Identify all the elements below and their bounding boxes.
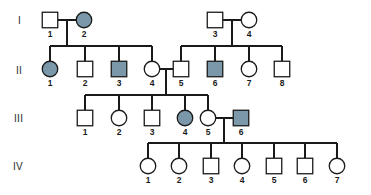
individual-IV-4-id-label: 4 (240, 175, 245, 185)
generation-label-III: III (14, 113, 23, 124)
individual-symbols-group (42, 12, 345, 174)
individual-II-2-male-unaffected-symbol[interactable] (77, 61, 93, 77)
individual-II-1-id-label: 1 (48, 78, 53, 88)
individual-III-1-male-unaffected-symbol[interactable] (77, 110, 93, 126)
individual-IV-7-female-unaffected-symbol[interactable] (329, 158, 345, 174)
individual-I-3-male-unaffected-symbol[interactable] (207, 12, 223, 28)
individual-IV-5-id-label: 5 (272, 175, 277, 185)
individual-III-5-id-label: 5 (206, 127, 211, 137)
individual-II-3-male-affected-symbol[interactable] (111, 61, 127, 77)
individual-III-6-id-label: 6 (239, 127, 244, 137)
individual-IV-1-female-unaffected-symbol[interactable] (140, 158, 156, 174)
individual-II-1-female-affected-symbol[interactable] (42, 61, 58, 77)
pedigree-canvas: 1234123456781234561234567 IIIIIIIV (0, 0, 371, 195)
individual-III-6-male-affected-symbol[interactable] (233, 110, 249, 126)
individual-IV-2-female-unaffected-symbol[interactable] (171, 158, 187, 174)
individual-I-1-male-unaffected-symbol[interactable] (42, 12, 58, 28)
individual-I-3-id-label: 3 (213, 29, 218, 39)
generation-labels-group: IIIIIIIV (13, 15, 23, 172)
individual-II-7-id-label: 7 (247, 78, 252, 88)
generation-label-IV: IV (13, 161, 23, 172)
individual-II-5-male-unaffected-symbol[interactable] (173, 61, 189, 77)
individual-IV-6-id-label: 6 (303, 175, 308, 185)
individual-III-1-id-label: 1 (83, 127, 88, 137)
individual-IV-4-female-unaffected-symbol[interactable] (234, 158, 250, 174)
individual-II-2-id-label: 2 (83, 78, 88, 88)
individual-IV-1-id-label: 1 (146, 175, 151, 185)
individual-II-7-female-unaffected-symbol[interactable] (241, 61, 257, 77)
individual-IV-2-id-label: 2 (177, 175, 182, 185)
individual-I-4-female-unaffected-symbol[interactable] (241, 12, 257, 28)
individual-II-6-id-label: 6 (213, 78, 218, 88)
individual-III-4-id-label: 4 (183, 127, 188, 137)
individual-II-3-id-label: 3 (117, 78, 122, 88)
individual-II-8-id-label: 8 (280, 78, 285, 88)
individual-II-5-id-label: 5 (179, 78, 184, 88)
individual-I-1-id-label: 1 (48, 29, 53, 39)
pedigree-chart: 1234123456781234561234567 IIIIIIIV (0, 0, 371, 195)
individual-I-4-id-label: 4 (247, 29, 252, 39)
individual-IV-3-male-unaffected-symbol[interactable] (203, 158, 219, 174)
individual-IV-6-male-unaffected-symbol[interactable] (297, 158, 313, 174)
connector-lines-group (50, 20, 337, 158)
individual-IV-5-male-unaffected-symbol[interactable] (266, 158, 282, 174)
individual-II-4-id-label: 4 (150, 78, 155, 88)
generation-label-II: II (16, 65, 22, 76)
individual-IV-3-id-label: 3 (209, 175, 214, 185)
individual-II-6-male-affected-symbol[interactable] (207, 61, 223, 77)
individual-IV-7-id-label: 7 (335, 175, 340, 185)
individual-I-2-id-label: 2 (82, 29, 87, 39)
generation-label-I: I (18, 15, 21, 26)
individual-II-4-female-unaffected-symbol[interactable] (144, 61, 160, 77)
individual-III-3-male-unaffected-symbol[interactable] (144, 110, 160, 126)
individual-III-4-female-affected-symbol[interactable] (177, 110, 193, 126)
individual-III-5-female-unaffected-symbol[interactable] (200, 110, 216, 126)
individual-III-2-female-unaffected-symbol[interactable] (111, 110, 127, 126)
individual-II-8-male-unaffected-symbol[interactable] (274, 61, 290, 77)
individual-III-3-id-label: 3 (150, 127, 155, 137)
individual-id-labels-group: 1234123456781234561234567 (48, 29, 340, 185)
individual-I-2-female-affected-symbol[interactable] (76, 12, 92, 28)
individual-III-2-id-label: 2 (117, 127, 122, 137)
